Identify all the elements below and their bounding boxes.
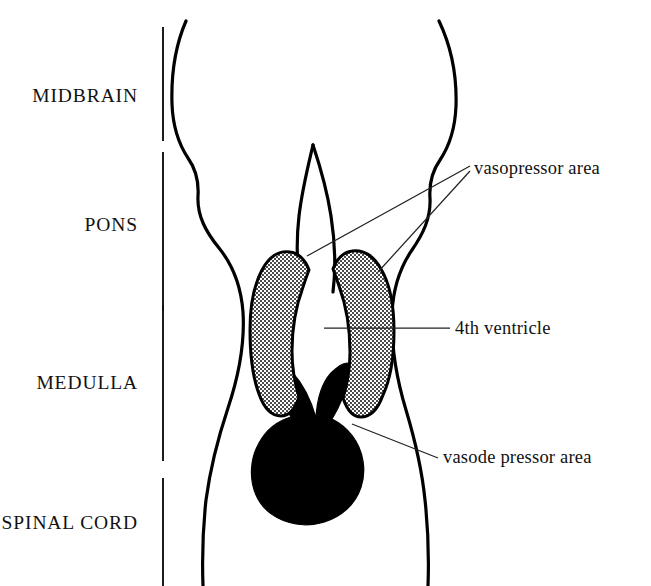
region-label-midbrain: MIDBRAIN <box>32 85 138 106</box>
diagram-canvas: MIDBRAIN PONS MEDULLA SPINAL CORD vasopr… <box>0 0 651 586</box>
region-label-spinal-cord: SPINAL CORD <box>2 512 139 533</box>
callout-label-vasodepressor: vasode pressor area <box>443 447 592 467</box>
callout-label-vasopressor: vasopressor area <box>474 158 600 178</box>
region-label-pons: PONS <box>85 214 138 235</box>
region-label-medulla: MEDULLA <box>36 372 138 393</box>
callout-label-fourth-ventricle: 4th ventricle <box>455 318 551 338</box>
brainstem-diagram: MIDBRAIN PONS MEDULLA SPINAL CORD vasopr… <box>0 0 651 586</box>
